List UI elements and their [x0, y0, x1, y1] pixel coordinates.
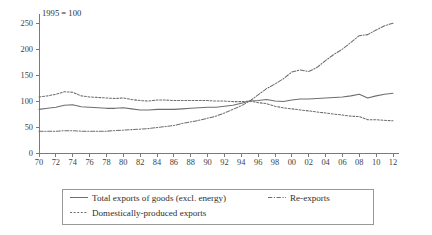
x-tick-label: 12	[389, 158, 397, 167]
x-tick-label: 78	[102, 158, 110, 167]
y-axis-ticks: 050100150200250	[20, 19, 39, 158]
x-tick-label: 92	[220, 158, 228, 167]
y-tick-label: 50	[25, 123, 33, 132]
x-tick-label: 82	[136, 158, 144, 167]
x-tick-label: 90	[203, 158, 211, 167]
x-tick-label: 88	[187, 158, 195, 167]
index-note-label: 1995 = 100	[42, 8, 81, 18]
x-tick-label: 00	[288, 158, 296, 167]
x-tick-label: 80	[119, 158, 127, 167]
x-tick-label: 06	[338, 158, 346, 167]
legend-entries: Total exports of goods (excl. energy)Re-…	[70, 193, 330, 218]
x-tick-label: 10	[372, 158, 380, 167]
plot-area: 050100150200250 707274767880828486889092…	[20, 14, 399, 167]
legend-label-1: Re-exports	[290, 193, 330, 203]
x-tick-label: 72	[52, 158, 60, 167]
x-tick-label: 86	[170, 158, 178, 167]
y-tick-label: 150	[20, 71, 33, 80]
x-tick-label: 08	[355, 158, 363, 167]
x-tick-label: 70	[35, 158, 43, 167]
x-tick-label: 04	[321, 158, 330, 167]
series-line-0	[39, 93, 393, 110]
legend-label-2: Domestically-produced exports	[92, 208, 207, 218]
x-tick-label: 02	[305, 158, 313, 167]
y-tick-label: 250	[20, 19, 33, 28]
x-tick-label: 84	[153, 158, 162, 167]
legend-label-0: Total exports of goods (excl. energy)	[92, 193, 226, 203]
x-axis-ticks: 7072747678808284868890929496980002040608…	[35, 153, 397, 167]
legend: Total exports of goods (excl. energy)Re-…	[63, 190, 374, 225]
chart-svg: 050100150200250 707274767880828486889092…	[0, 0, 432, 235]
y-tick-label: 200	[20, 45, 33, 54]
series-group	[39, 23, 393, 131]
x-tick-label: 96	[254, 158, 262, 167]
x-tick-label: 76	[85, 158, 93, 167]
chart-figure: 050100150200250 707274767880828486889092…	[0, 0, 432, 235]
x-tick-label: 74	[69, 158, 78, 167]
y-tick-label: 100	[20, 97, 33, 106]
x-tick-label: 94	[237, 158, 246, 167]
y-tick-label: 0	[29, 149, 33, 158]
x-tick-label: 98	[271, 158, 279, 167]
